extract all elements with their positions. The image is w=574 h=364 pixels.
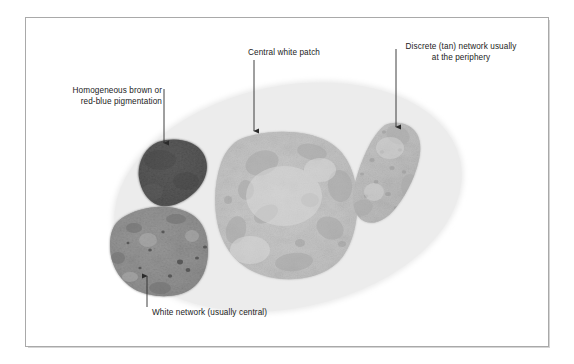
figure-root: Homogeneous brown or red-blue pigmentati… xyxy=(0,0,574,364)
label-central-white-patch: Central white patch xyxy=(248,48,368,59)
label-discrete-tan-network: Discrete (tan) network usually at the pe… xyxy=(391,42,531,63)
label-homogeneous-pigmentation: Homogeneous brown or red-blue pigmentati… xyxy=(62,86,162,107)
label-white-network: White network (usually central) xyxy=(152,308,312,319)
